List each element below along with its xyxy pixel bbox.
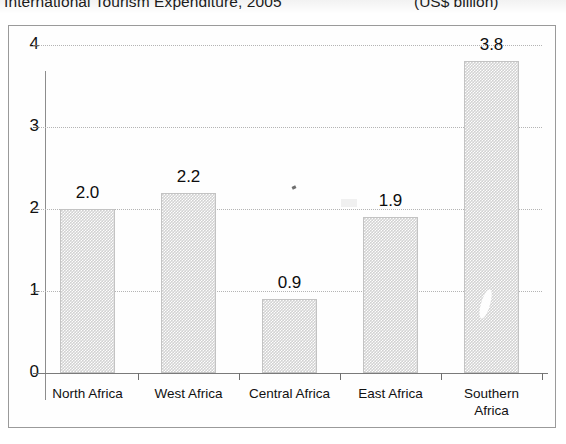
x-tick-mark <box>239 373 240 380</box>
y-axis-labels: 01234 <box>13 26 39 429</box>
scan-smudge-artifact <box>341 199 357 207</box>
bar-value-label: 2.0 <box>48 183 128 203</box>
x-axis-category-label: West Africa <box>134 385 244 402</box>
y-axis-tick-label: 0 <box>17 362 39 382</box>
bar-value-label: 1.9 <box>351 191 431 211</box>
bar-value-label: 3.8 <box>452 35 532 55</box>
x-tick-mark <box>138 373 139 380</box>
bar <box>262 299 317 373</box>
y-axis-tick-label: 3 <box>17 116 39 136</box>
bar <box>161 193 216 373</box>
units-label: (US$ billion) <box>414 0 498 11</box>
bar <box>60 209 115 373</box>
y-tick-mark <box>33 209 39 210</box>
y-axis-tick-label: 1 <box>17 280 39 300</box>
chart-frame: 01234 2.02.20.91.93.8 North AfricaWest A… <box>8 25 556 428</box>
bar-value-label: 2.2 <box>149 167 229 187</box>
x-tick-mark <box>340 373 341 380</box>
x-tick-mark <box>441 373 442 380</box>
bar-value-label: 0.9 <box>250 273 330 293</box>
y-tick-mark <box>33 127 39 128</box>
scan-speck-artifact <box>292 185 297 189</box>
bar <box>363 217 418 373</box>
bar <box>464 61 519 373</box>
x-axis-category-label: North Africa <box>33 385 143 402</box>
chart-header: International Tourism Expenditure, 2005 … <box>0 0 566 22</box>
y-axis-tick-label: 2 <box>17 198 39 218</box>
axis-baseline <box>37 373 548 374</box>
x-tick-mark <box>542 373 543 380</box>
x-axis-category-label: Southern Africa <box>437 385 547 419</box>
page-title: International Tourism Expenditure, 2005 <box>4 0 282 11</box>
y-tick-mark <box>33 291 39 292</box>
y-tick-mark <box>33 45 39 46</box>
y-axis-tick-label: 4 <box>17 34 39 54</box>
y-axis-line <box>45 71 46 400</box>
x-axis-category-label: Central Africa <box>235 385 345 402</box>
x-axis-category-label: East Africa <box>336 385 446 402</box>
y-tick-mark <box>33 373 39 374</box>
